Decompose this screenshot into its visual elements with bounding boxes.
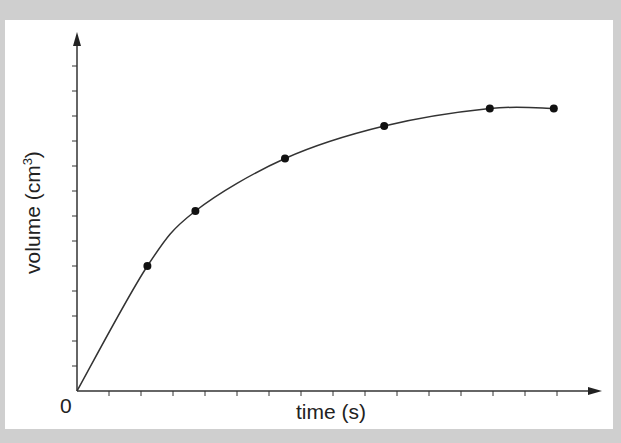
data-point <box>550 105 558 113</box>
data-point <box>191 207 199 215</box>
y-axis-arrow-icon <box>73 32 81 46</box>
chart-svg <box>0 0 621 443</box>
data-points <box>143 105 557 271</box>
origin-label: 0 <box>60 394 72 418</box>
data-point <box>486 105 494 113</box>
y-axis-label: volume (cm3) <box>20 133 45 293</box>
data-point <box>143 262 151 270</box>
data-curve <box>77 107 554 391</box>
data-point <box>281 155 289 163</box>
x-axis-arrow-icon <box>588 387 602 395</box>
x-axis-label: time (s) <box>296 400 366 424</box>
data-point <box>380 122 388 130</box>
